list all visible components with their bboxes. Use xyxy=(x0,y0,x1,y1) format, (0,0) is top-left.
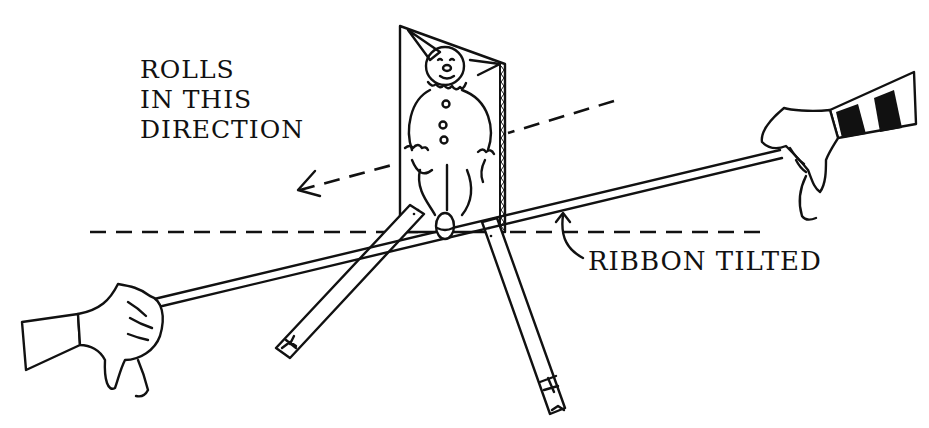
direction-label-line-2: IN THIS xyxy=(140,85,304,115)
right-stick-leg xyxy=(482,218,565,414)
direction-label: ROLLS IN THIS DIRECTION xyxy=(140,55,304,145)
left-hand xyxy=(22,284,163,396)
direction-label-line-3: DIRECTION xyxy=(140,115,304,145)
ribbon-tilted-label: RIBBON TILTED xyxy=(588,246,822,276)
ribbon-tilted-arrow-icon xyxy=(556,213,583,258)
direction-label-line-1: ROLLS xyxy=(140,55,304,85)
right-hand xyxy=(762,72,916,220)
clown-card xyxy=(400,26,505,232)
left-stick-leg xyxy=(276,205,424,358)
